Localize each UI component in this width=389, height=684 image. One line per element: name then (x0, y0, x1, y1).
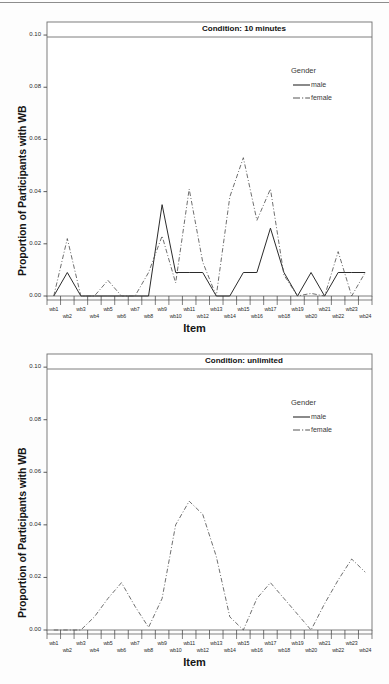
x-axis-tick-label: wb8 (139, 313, 159, 319)
x-axis-tick-label: wb1 (44, 306, 64, 312)
x-axis-tick-label: wb13 (206, 306, 226, 312)
y-axis-tick-label: 0.08 (17, 83, 41, 89)
y-axis-tick-label: 0.04 (17, 188, 41, 194)
x-axis-tick-label: wb14 (220, 313, 240, 319)
x-axis-tick-label: wb18 (274, 647, 294, 653)
x-axis-tick-label: wb2 (57, 647, 77, 653)
x-axis-tick-label: wb20 (301, 647, 321, 653)
x-axis-tick-label: wb5 (98, 640, 118, 646)
x-axis-tick-label: wb10 (166, 313, 186, 319)
x-axis-tick-label: wb9 (152, 640, 172, 646)
x-axis-tick-label: wb10 (166, 647, 186, 653)
x-axis-tick-label: wb16 (247, 647, 267, 653)
y-axis-tick-label: 0.02 (17, 240, 41, 246)
y-axis-tick-label: 0.08 (17, 416, 41, 422)
y-axis-tick-label: 0.00 (17, 626, 41, 632)
x-axis-tick-label: wb11 (179, 640, 199, 646)
x-axis-tick-label: wb15 (233, 640, 253, 646)
x-axis-title-top: Item (0, 322, 389, 334)
x-axis-title-bottom: Item (0, 656, 389, 668)
x-axis-tick-label: wb9 (152, 306, 172, 312)
x-axis-tick-label: wb21 (315, 640, 335, 646)
chart-canvas-top (0, 0, 389, 342)
x-axis-tick-label: wb24 (355, 647, 375, 653)
x-axis-tick-label: wb8 (139, 647, 159, 653)
x-axis-tick-label: wb13 (206, 640, 226, 646)
legend-title-top: Gender (291, 66, 316, 75)
x-axis-tick-label: wb12 (193, 313, 213, 319)
plot-frame (47, 354, 372, 630)
x-axis-tick-label: wb16 (247, 313, 267, 319)
chart-panel-10-minutes: Proportion of Participants with WB Condi… (0, 0, 389, 342)
y-axis-tick-label: 0.02 (17, 573, 41, 579)
x-axis-tick-label: wb7 (125, 306, 145, 312)
plot-frame (47, 22, 372, 296)
legend-label-male-top: male (311, 81, 326, 88)
legend-label-female-bottom: female (311, 426, 332, 433)
panel-condition-title-bottom: Condition: unlimited (205, 356, 283, 365)
y-axis-tick-label: 0.06 (17, 135, 41, 141)
x-axis-tick-label: wb19 (288, 640, 308, 646)
y-axis-tick-label: 0.06 (17, 468, 41, 474)
x-axis-tick-label: wb21 (315, 306, 335, 312)
x-axis-tick-label: wb7 (125, 640, 145, 646)
x-axis-tick-label: wb19 (288, 306, 308, 312)
panel-condition-title-top: Condition: 10 minutes (202, 24, 286, 33)
x-axis-tick-label: wb12 (193, 647, 213, 653)
y-axis-tick-label: 0.04 (17, 521, 41, 527)
x-axis-tick-label: wb23 (342, 306, 362, 312)
chart-panel-unlimited: Proportion of Participants with WB Condi… (0, 342, 389, 684)
x-axis-tick-label: wb6 (111, 647, 131, 653)
x-axis-tick-label: wb1 (44, 640, 64, 646)
x-axis-tick-label: wb11 (179, 306, 199, 312)
x-axis-tick-label: wb20 (301, 313, 321, 319)
x-axis-tick-label: wb4 (84, 647, 104, 653)
legend-title-bottom: Gender (291, 398, 316, 407)
x-axis-tick-label: wb15 (233, 306, 253, 312)
x-axis-tick-label: wb17 (260, 306, 280, 312)
x-axis-tick-label: wb22 (328, 647, 348, 653)
x-axis-tick-label: wb22 (328, 313, 348, 319)
x-axis-tick-label: wb14 (220, 647, 240, 653)
x-axis-tick-label: wb5 (98, 306, 118, 312)
x-axis-tick-label: wb23 (342, 640, 362, 646)
x-axis-tick-label: wb2 (57, 313, 77, 319)
legend-label-male-bottom: male (311, 413, 326, 420)
x-axis-tick-label: wb17 (260, 640, 280, 646)
y-axis-tick-label: 0.00 (17, 292, 41, 298)
x-axis-tick-label: wb18 (274, 313, 294, 319)
x-axis-tick-label: wb3 (71, 640, 91, 646)
legend-label-female-top: female (311, 94, 332, 101)
figure-page: Proportion of Participants with WB Condi… (0, 0, 389, 684)
y-axis-tick-label: 0.10 (17, 363, 41, 369)
y-axis-tick-label: 0.10 (17, 31, 41, 37)
x-axis-tick-label: wb3 (71, 306, 91, 312)
x-axis-tick-label: wb6 (111, 313, 131, 319)
x-axis-tick-label: wb24 (355, 313, 375, 319)
x-axis-tick-label: wb4 (84, 313, 104, 319)
chart-canvas-bottom (0, 342, 389, 684)
